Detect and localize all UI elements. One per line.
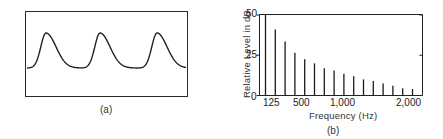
panel-a-label: (a) — [100, 104, 112, 115]
x-tick-1000: 1,000 — [330, 97, 355, 108]
x-tick-500: 500 — [293, 97, 310, 108]
panel-b-plot — [257, 15, 423, 96]
panel-a-frame — [26, 12, 188, 97]
y-tick-25: 25 — [246, 49, 257, 60]
panel-a-plot — [26, 12, 188, 97]
x-tick-125: 125 — [263, 97, 280, 108]
panel-b-label: (b) — [327, 125, 339, 136]
panel-a-waveform — [27, 33, 186, 68]
x-axis-title: Frequency (Hz) — [309, 110, 377, 121]
x-tick-2000: 2,000 — [396, 97, 421, 108]
y-tick-50: 50 — [246, 8, 257, 19]
y-tick-0: 0 — [251, 91, 257, 102]
